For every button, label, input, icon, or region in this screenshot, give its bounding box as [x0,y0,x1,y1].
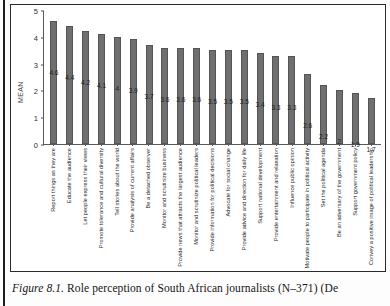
x-tick-label: Be a detached observer [145,148,151,209]
bar-slot: 3.4 [252,11,268,144]
bar-slot: 3.9 [125,11,141,144]
x-label-slot: Monitor and scrutinize business [156,146,172,268]
x-tick-label: Motivate people to participate in politi… [304,148,310,268]
x-label-slot: Provide analysis of current affairs [125,146,141,268]
x-label-slot: Report things as they are [45,146,61,268]
y-axis-ticks: 012345 [27,11,41,145]
bar-slot: 3.6 [157,11,173,144]
bar[interactable] [66,26,73,144]
x-label-slot: Tell stories about the world [109,146,125,268]
bar-value-label: 3.5 [240,98,249,105]
bar[interactable] [241,50,248,144]
bar-slot: 3.5 [236,11,252,144]
bar-value-label: 3.3 [271,104,280,111]
x-tick-label: Report things as they are [50,148,56,212]
x-tick-label: Monitor and scrutinize business [161,148,167,228]
x-tick-label: Let people express their views [82,148,88,225]
figure-caption: Figure 8.1. Role perception of South Afr… [12,282,384,294]
x-tick-mark [132,143,133,146]
x-tick-label: Tell stories about the world [114,148,120,216]
y-tick-label: 3 [26,60,38,69]
x-tick-mark [339,143,340,146]
x-tick-mark [196,143,197,146]
figure-frame: MEAN 012345 4.64.44.24.143.93.73.63.63.6… [10,4,386,272]
bar-value-label: 3.6 [176,96,185,103]
x-tick-mark [148,143,149,146]
x-label-slot: Provide information for political decisi… [204,146,220,268]
y-tick-label: 2 [26,87,38,96]
x-label-slot: Be an adversary of the government [331,146,347,268]
x-tick-mark [101,143,102,146]
bar[interactable] [257,53,264,144]
x-label-slot: Provide entertainment and relaxation [268,146,284,268]
x-label-slot: Provide advice and direction for daily l… [236,146,252,268]
x-tick-label: Support national development [257,148,263,224]
x-tick-label: Be an adversary of the government [336,148,342,237]
x-label-slot: Monitor and scrutinize political leaders [188,146,204,268]
bar-series: 4.64.44.24.143.93.73.63.63.63.53.53.53.4… [44,11,381,144]
x-tick-mark [164,143,165,146]
x-axis-labels: Report things as they areEducate the aud… [43,146,381,268]
x-tick-label: Convey a positive image of political lea… [368,148,374,265]
x-tick-label: Provide news that attracts the largest a… [177,148,183,267]
x-tick-label: Set the political agenda [320,148,326,207]
bar[interactable] [368,98,375,144]
y-tick-label: 0 [26,141,38,150]
bar[interactable] [50,21,57,144]
bar-slot: 4.4 [62,11,78,144]
x-label-slot: Set the political agenda [315,146,331,268]
bar-value-label: 4.4 [65,74,74,81]
bar-value-label: 3.9 [129,87,138,94]
bar[interactable] [225,50,232,144]
bar-slot: 1.7 [363,11,379,144]
y-tick-label: 5 [26,7,38,16]
x-label-slot: Advocate for social change [220,146,236,268]
bar-slot: 4 [109,11,125,144]
bar-chart: MEAN 012345 4.64.44.24.143.93.73.63.63.6… [11,5,385,271]
x-tick-mark [260,143,261,146]
x-tick-mark [323,143,324,146]
bar[interactable] [336,90,343,144]
x-tick-mark [276,143,277,146]
bar[interactable] [272,56,279,144]
bar-slot: 1.9 [347,11,363,144]
x-label-slot: Educate the audience [61,146,77,268]
x-tick-mark [292,143,293,146]
bar-slot: 2 [331,11,347,144]
bar-value-label: 3.5 [208,98,217,105]
x-tick-mark [307,143,308,146]
bar-value-label: 3.5 [224,98,233,105]
y-tick-label: 1 [26,114,38,123]
bar[interactable] [304,74,311,144]
bar-value-label: 3.6 [160,96,169,103]
scanned-page: MEAN 012345 4.64.44.24.143.93.73.63.63.6… [0,0,390,306]
x-label-slot: Convey a positive image of political lea… [363,146,379,268]
x-label-slot: Support government policy [347,146,363,268]
bar-slot: 4.2 [78,11,94,144]
bar-slot: 3.5 [205,11,221,144]
x-tick-label: Educate the audience [66,148,72,203]
x-tick-label: Provide entertainment and relaxation [273,148,279,241]
bar-value-label: 4.6 [49,69,58,76]
x-label-slot: Be a detached observer [140,146,156,268]
x-tick-label: Advocate for social change [225,148,231,216]
bar-value-label: 2.2 [319,133,328,140]
bar[interactable] [209,50,216,144]
x-label-slot: Support national development [252,146,268,268]
bar-slot: 3.6 [189,11,205,144]
x-tick-mark [85,143,86,146]
bar-value-label: 3.4 [256,101,265,108]
x-tick-mark [180,143,181,146]
bar[interactable] [288,56,295,144]
x-tick-label: Provide information for political decisi… [209,148,215,252]
x-tick-mark [117,143,118,146]
page-edge-rule [3,0,5,306]
bar[interactable] [82,31,89,144]
bar-value-label: 3.7 [145,93,154,100]
plot-area: 4.64.44.24.143.93.73.63.63.63.53.53.53.4… [43,11,381,145]
x-tick-mark [69,143,70,146]
x-tick-mark [212,143,213,146]
x-tick-label: Monitor and scrutinize political leaders [193,148,199,245]
x-tick-label: Promote tolerance and cultural diversity [98,148,104,248]
bar[interactable] [352,93,359,144]
